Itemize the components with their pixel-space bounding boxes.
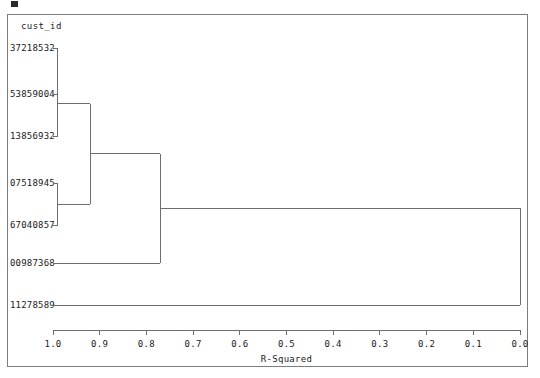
x-tick-label-0.0: 0.0 [511,339,528,349]
leaf-label-67040857: 67040857 [10,220,55,230]
x-axis-title: R-Squared [261,354,312,364]
x-tick-label-0.1: 0.1 [465,339,482,349]
leaf-label-00987368: 00987368 [10,258,55,268]
leaf-label-37218532: 37218532 [10,43,55,53]
leaf-label-53859004: 53859004 [10,89,55,99]
top-left-artifact-mark [11,1,18,7]
x-tick-label-0.6: 0.6 [231,339,248,349]
x-tick-label-0.2: 0.2 [418,339,435,349]
x-tick-label-0.7: 0.7 [185,339,202,349]
x-tick-label-1.0: 1.0 [44,339,61,349]
column-header-cust-id: cust_id [21,21,62,31]
plot-frame [7,14,528,367]
leaf-label-11278589: 11278589 [10,300,55,310]
x-tick-label-0.3: 0.3 [371,339,388,349]
x-tick-label-0.9: 0.9 [91,339,108,349]
x-tick-label-0.5: 0.5 [278,339,295,349]
leaf-label-07518945: 07518945 [10,178,55,188]
x-tick-label-0.8: 0.8 [138,339,155,349]
dendrogram-screenshot: cust_id 37218532538590041385693207518945… [0,0,540,378]
leaf-label-13856932: 13856932 [10,131,55,141]
x-tick-label-0.4: 0.4 [325,339,342,349]
